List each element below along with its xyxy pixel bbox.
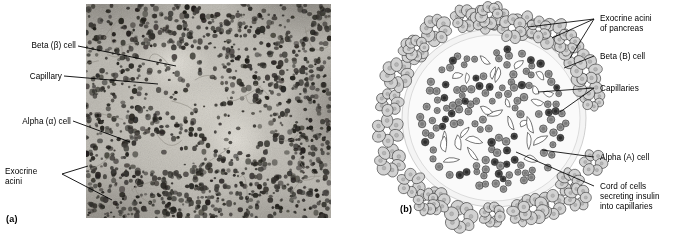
label-beta-cell: Beta (β) cell <box>0 41 76 51</box>
label-exocrine-acini-line1: Exocrine <box>5 167 37 177</box>
label-exocrine-acini-pancreas-line2: of pancreas <box>600 24 643 34</box>
panel-b-diagram: Exocrine acini of pancreas Beta (B) cell… <box>346 0 692 247</box>
panel-a-letter: (a) <box>6 214 18 224</box>
figure-pancreatic-islet: Beta (β) cell Capillary Alpha (α) cell E… <box>0 0 692 247</box>
label-exocrine-acini-line2: acini <box>5 177 22 187</box>
label-capillaries: Capillaries <box>600 84 639 94</box>
micrograph-nuclei-layer <box>86 4 331 218</box>
label-capillary: Capillary <box>0 72 62 82</box>
label-cord-of-cells-line2: secreting insulin <box>600 192 660 202</box>
panel-b-letter: (b) <box>400 204 412 214</box>
panel-a-micrograph: Beta (β) cell Capillary Alpha (α) cell E… <box>0 0 346 247</box>
label-alpha-cell: Alpha (α) cell <box>0 117 71 127</box>
label-cord-of-cells-line3: into capillaries <box>600 202 653 212</box>
label-alpha-a-cell: Alpha (A) cell <box>600 153 649 163</box>
label-cord-of-cells-line1: Cord of cells <box>600 182 646 192</box>
micrograph-image <box>86 4 331 218</box>
label-exocrine-acini-pancreas-line1: Exocrine acini <box>600 14 652 24</box>
label-beta-b-cell: Beta (B) cell <box>600 52 645 62</box>
